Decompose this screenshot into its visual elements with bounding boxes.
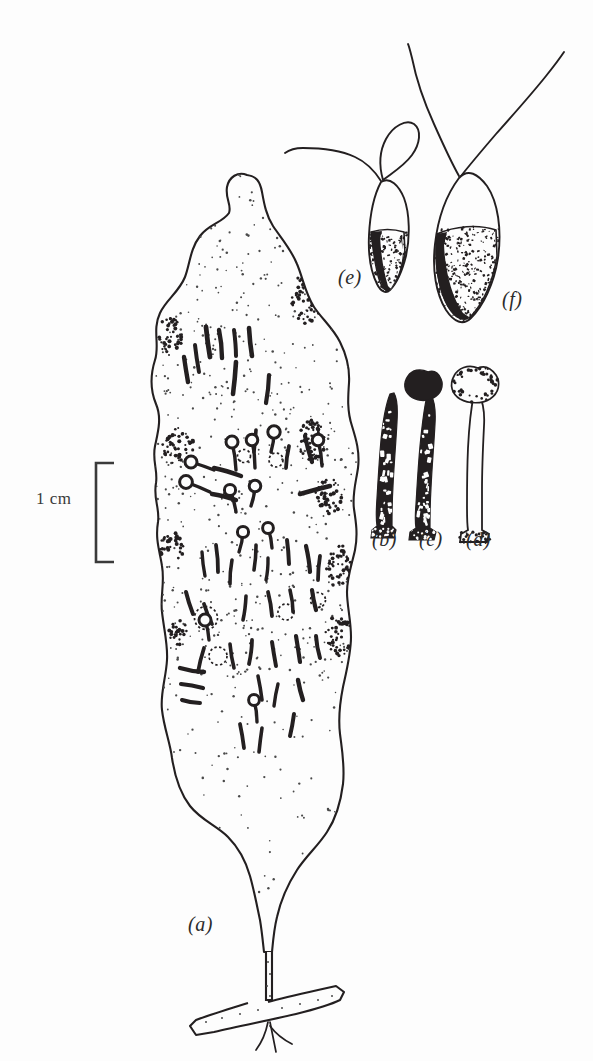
- scale-bar-label: 1 cm: [36, 489, 72, 509]
- rod-element-b: [371, 393, 397, 538]
- panel-label-b: (b): [372, 528, 397, 551]
- panel-label-d: (d): [466, 528, 491, 551]
- panel-b-element: [371, 393, 398, 538]
- panel-d-element: [452, 366, 500, 543]
- stalk-c: [409, 395, 436, 540]
- lobed-head-d: [452, 366, 499, 402]
- stalk-d: [460, 394, 489, 542]
- flagellum-left-f: [408, 44, 459, 176]
- panel-label-f: (f): [502, 288, 522, 311]
- flagellum-right-f: [461, 52, 564, 176]
- panel-c-element: [405, 370, 442, 540]
- panel-a-thallus: [147, 169, 365, 1052]
- panel-label-c: (c): [419, 528, 443, 551]
- scale-bracket: [96, 463, 114, 562]
- flagellum-long-e: [285, 148, 381, 181]
- basal-stolon: [190, 952, 344, 1052]
- flagellum-looped-e: [380, 122, 419, 180]
- lobed-head-c: [405, 370, 442, 401]
- figure-plate: 1 cm (a) (b) (c) (d) (e) (f): [0, 0, 593, 1061]
- scale-bar: [96, 463, 114, 562]
- panel-f-cell: [408, 44, 564, 323]
- panel-label-a: (a): [188, 913, 213, 936]
- panel-label-e: (e): [338, 266, 362, 289]
- illustration-canvas: [0, 0, 593, 1061]
